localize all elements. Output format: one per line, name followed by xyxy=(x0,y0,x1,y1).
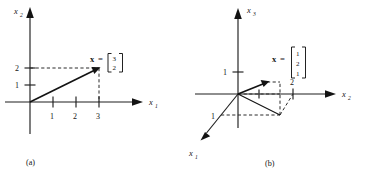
panel-a-x1-label-sub: 1 xyxy=(155,103,158,109)
panel-b-x1-tick-1: 1 xyxy=(211,112,215,121)
panel-b-caption: (b) xyxy=(265,159,275,168)
panel-b-vector-label: x = 1 2 1 xyxy=(272,47,306,78)
panel-a-bracket-right xyxy=(119,54,123,73)
panel-b-vector-component-0: 1 xyxy=(296,50,300,58)
panel-a-x1-tick-2: 2 xyxy=(73,112,77,121)
panel-b-x3-label-base: x xyxy=(246,5,251,15)
panel-a-caption: (a) xyxy=(26,158,35,167)
panel-a-x2-axis xyxy=(26,7,34,134)
panel-a-x1-tick-1: 1 xyxy=(50,112,54,121)
panel-a-x1-tick-3: 3 xyxy=(96,112,100,121)
panel-a-x2-axis-label: x 2 xyxy=(13,6,23,18)
panel-b-bracket-right xyxy=(302,47,306,78)
panel-b-x3-label-sub: 3 xyxy=(252,11,256,17)
panel-b-vector-equals: = xyxy=(280,54,285,64)
panel-b-x1-axis xyxy=(201,94,239,141)
panel-b-x3-ticks: 1 xyxy=(223,68,244,77)
panel-a-x2-label-base: x xyxy=(13,6,18,16)
panel-a-vector-symbol: x xyxy=(90,54,95,64)
panel-b-x2-axis xyxy=(195,90,336,97)
panel-b: x 3 x 2 x 1 1 2 1 xyxy=(183,0,365,175)
panel-b-x2-label-base: x xyxy=(341,89,346,99)
panel-a-x2-label-sub: 2 xyxy=(20,12,23,18)
panel-b-x1-ticks: 1 xyxy=(211,112,215,121)
panel-b-x3-axis-label: x 3 xyxy=(246,5,256,17)
panel-a-vector-equals: = xyxy=(98,54,103,64)
panel-a-x2-tick-2: 2 xyxy=(15,64,19,73)
panel-b-x1-label-sub: 1 xyxy=(195,154,198,160)
panel-b-x2-tick-2: 2 xyxy=(290,78,294,87)
panel-a-vector-component-1: 2 xyxy=(113,64,117,72)
panel-a-bracket-left xyxy=(108,54,112,73)
panel-a-x2-tick-1: 1 xyxy=(15,81,19,90)
panel-b-bracket-left xyxy=(292,47,296,78)
panel-a-x1-ticks: 1 2 3 xyxy=(50,97,100,122)
panel-b-vector-arrow xyxy=(238,80,270,94)
panel-b-x2-label-sub: 2 xyxy=(348,95,351,101)
panel-a-x1-axis-label: x 1 xyxy=(148,97,158,109)
panel-a-vector-arrow xyxy=(30,67,101,102)
panel-a-x1-label-base: x xyxy=(148,97,153,107)
panel-a-vector-component-0: 3 xyxy=(113,55,117,63)
panel-b-x3-axis xyxy=(234,8,242,128)
panel-a-x1-axis xyxy=(5,98,143,105)
panel-b-vector-symbol: x xyxy=(272,54,277,64)
panel-b-vector-component-1: 2 xyxy=(296,60,300,68)
panel-b-vector-component-2: 1 xyxy=(296,70,300,78)
panel-b-x1-axis-label: x 1 xyxy=(188,148,198,160)
panel-b-x2-axis-label: x 2 xyxy=(341,89,351,101)
panel-b-x3-tick-1: 1 xyxy=(223,68,227,77)
panel-b-x2-ticks: 2 xyxy=(290,78,294,100)
figure-root: x 2 x 1 1 2 3 1 2 xyxy=(0,0,365,175)
panel-b-x1-label-base: x xyxy=(188,148,193,158)
panel-a: x 2 x 1 1 2 3 1 2 xyxy=(0,0,183,175)
